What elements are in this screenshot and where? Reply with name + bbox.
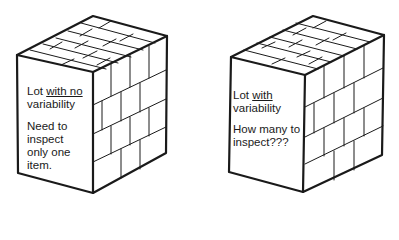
right-box-note: How many to inspect??? [233,123,300,149]
left-note-line: inspect [27,133,70,146]
left-title-prefix: Lot [27,85,46,97]
left-box-title: Lot with no variability [27,85,83,111]
right-note-line: inspect??? [233,136,300,149]
right-box-title: Lot with variability [233,89,281,115]
left-box-note: Need to inspect only one item. [27,120,70,172]
left-note-line: Need to [27,120,70,133]
left-title-underlined: with no [46,85,82,97]
right-title-prefix: Lot [233,89,252,101]
right-note-line: How many to [233,123,300,136]
left-note-line: item. [27,159,70,172]
right-title-underlined: with [252,89,272,101]
left-title-line2: variability [27,98,83,111]
left-note-line: only one [27,146,70,159]
right-title-line2: variability [233,102,281,115]
